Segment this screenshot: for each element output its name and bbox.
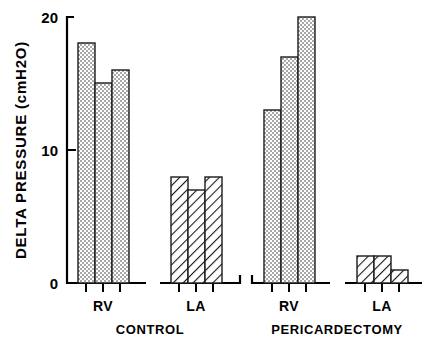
bar-peri-rv-2 [281,57,298,283]
group-label-control-la: LA [186,298,206,314]
panel-label-control: CONTROL [116,322,184,337]
group-label-peri-rv: RV [279,298,299,314]
group-label-peri-la: LA [372,298,392,314]
bar-control-rv-3 [112,70,129,283]
bar-control-la-3 [205,177,222,283]
bar-control-la-1 [171,177,188,283]
bar-peri-la-3 [391,270,408,283]
bar-control-la-2 [188,190,205,283]
bar-peri-la-2 [374,256,391,283]
bar-peri-rv-3 [298,17,315,283]
group-label-control-rv: RV [93,298,113,314]
y-axis-title: DELTA PRESSURE (cmH2O) [12,41,29,259]
bar-control-rv-2 [95,83,112,283]
y-tick-label-20: 20 [41,9,58,26]
y-tick-label-10: 10 [41,142,58,159]
bar-chart-svg: 20 10 0 DELTA PRESSURE (cmH2O) [0,0,429,360]
bar-control-rv-1 [78,43,95,283]
y-tick-label-0: 0 [50,275,58,292]
bar-peri-la-1 [357,256,374,283]
panel-label-pericardectomy: PERICARDECTOMY [271,322,403,337]
bar-peri-rv-1 [264,110,281,283]
bar-group-control-la [171,177,222,283]
chart-figure: 20 10 0 DELTA PRESSURE (cmH2O) [0,0,429,360]
